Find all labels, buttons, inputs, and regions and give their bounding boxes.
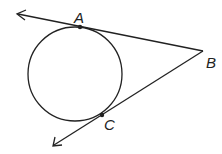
ray-ba — [18, 14, 203, 51]
label-c: C — [104, 116, 115, 133]
label-a: A — [73, 9, 84, 26]
circle — [28, 27, 122, 121]
ray-bc — [54, 51, 203, 145]
label-b: B — [206, 54, 216, 71]
tangent-diagram: A B C — [0, 0, 222, 154]
